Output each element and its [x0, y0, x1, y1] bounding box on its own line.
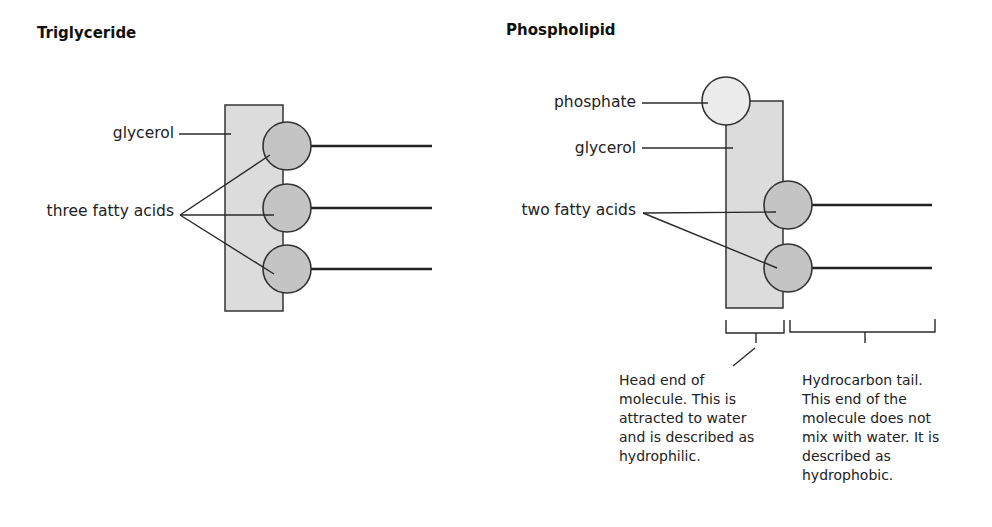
svg-text:attracted to water: attracted to water: [619, 410, 747, 426]
tail-description: Hydrocarbon tail. This end of the molecu…: [801, 372, 939, 483]
svg-text:described as: described as: [802, 448, 891, 464]
glycerol-label: glycerol: [113, 124, 174, 142]
head-description: Head end of molecule. This is attracted …: [619, 372, 754, 464]
fatty-acid-head-2: [263, 184, 311, 232]
svg-text:and is described as: and is described as: [619, 429, 754, 445]
svg-text:Hydrocarbon tail.: Hydrocarbon tail.: [802, 372, 923, 388]
fatty-acid-head-2: [764, 244, 812, 292]
phospholipid-title: Phospholipid: [506, 21, 616, 39]
head-pointer-line: [733, 348, 755, 366]
svg-text:Head end of: Head end of: [619, 372, 705, 388]
svg-text:This end of the: This end of the: [801, 391, 907, 407]
glycerol-label: glycerol: [575, 139, 636, 157]
lipid-structure-diagram: Triglyceride glycerol three fatty acids …: [0, 0, 992, 527]
svg-text:hydrophilic.: hydrophilic.: [619, 448, 701, 464]
fatty-acids-label: two fatty acids: [521, 201, 636, 219]
triglyceride-title: Triglyceride: [37, 24, 136, 42]
fatty-acid-head-1: [764, 181, 812, 229]
phosphate-label: phosphate: [554, 93, 636, 111]
triglyceride-diagram: Triglyceride glycerol three fatty acids: [37, 24, 432, 311]
phosphate-group: [702, 77, 750, 125]
svg-text:mix with water. It is: mix with water. It is: [802, 429, 939, 445]
fatty-acid-head-3: [263, 245, 311, 293]
fatty-acid-head-1: [263, 122, 311, 170]
svg-text:molecule does not: molecule does not: [802, 410, 931, 426]
svg-text:hydrophobic.: hydrophobic.: [802, 467, 893, 483]
tail-bracket: [790, 319, 935, 332]
fatty-acids-label: three fatty acids: [47, 202, 174, 220]
phospholipid-diagram: Phospholipid phosphate glycerol two fatt…: [506, 21, 939, 483]
svg-text:molecule. This is: molecule. This is: [619, 391, 736, 407]
fatty-acid-leader-line-1: [643, 212, 776, 213]
head-bracket: [726, 320, 784, 333]
